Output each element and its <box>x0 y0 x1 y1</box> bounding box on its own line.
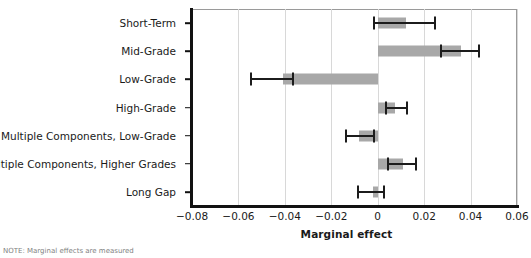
y-axis-label: Mid-Grade <box>121 46 176 57</box>
chart-row <box>192 37 517 65</box>
error-bar-cap-high <box>434 17 436 30</box>
x-tick-label: −0.06 <box>222 211 254 222</box>
gridline <box>517 9 518 206</box>
error-bar-cap-low <box>345 129 347 142</box>
error-bar-cap-high <box>373 129 375 142</box>
chart-row <box>192 94 517 122</box>
chart-row <box>192 65 517 93</box>
x-axis-title-text: Marginal effect <box>301 228 393 240</box>
error-bar-cap-high <box>415 157 417 170</box>
y-axis-label: High-Grade <box>116 102 176 113</box>
error-bar-cap-low <box>387 157 389 170</box>
y-axis-label: Multiple Components, Low-Grade <box>1 130 176 141</box>
x-tick-label: −0.08 <box>176 211 208 222</box>
error-bar-line <box>250 78 294 80</box>
y-axis-label: Low-Grade <box>119 74 176 85</box>
error-bar-cap-high <box>406 101 408 114</box>
chart-row <box>192 9 517 37</box>
chart-row <box>192 150 517 178</box>
y-axis-label: Multiple Components, Higher Grades <box>0 159 176 170</box>
y-axis-label: Long Gap <box>126 187 176 198</box>
x-axis-title: Marginal effect <box>0 228 531 240</box>
error-bar-line <box>345 135 375 137</box>
error-bar-cap-low <box>373 17 375 30</box>
x-axis-line <box>190 205 519 208</box>
x-tick-label: 0.06 <box>505 211 528 222</box>
error-bar-cap-high <box>383 185 385 198</box>
plot-area <box>192 9 517 206</box>
chart-row <box>192 122 517 150</box>
x-tick-label: 0 <box>374 211 381 222</box>
y-axis-line <box>190 8 193 207</box>
error-bar-line <box>357 191 385 193</box>
y-axis-label: Short-Term <box>120 18 176 29</box>
error-bar-line <box>440 50 479 52</box>
error-bar-cap-low <box>357 185 359 198</box>
x-tick-label: 0.02 <box>412 211 435 222</box>
marginal-effect-chart: Short-TermMid-GradeLow-GradeHigh-GradeMu… <box>0 0 531 258</box>
x-tick-label: −0.04 <box>269 211 301 222</box>
figure-footnote: NOTE: Marginal effects are measured <box>3 247 134 255</box>
error-bar-cap-high <box>478 45 480 58</box>
x-tick-label: −0.02 <box>315 211 347 222</box>
error-bar-cap-low <box>385 101 387 114</box>
error-bar-cap-low <box>250 73 252 86</box>
error-bar-cap-low <box>440 45 442 58</box>
bar <box>283 74 378 85</box>
y-axis-category-labels: Short-TermMid-GradeLow-GradeHigh-GradeMu… <box>0 9 184 206</box>
x-tick-label: 0.04 <box>459 211 482 222</box>
error-bar-line <box>387 163 417 165</box>
error-bar-line <box>385 107 408 109</box>
error-bar-cap-high <box>292 73 294 86</box>
chart-row <box>192 178 517 206</box>
error-bar-line <box>373 22 436 24</box>
